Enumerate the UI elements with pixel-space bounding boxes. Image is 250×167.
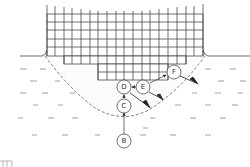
diagram-canvas: D E F C B xyxy=(0,0,250,167)
node-f-label: F xyxy=(172,68,176,76)
node-c: C xyxy=(117,99,131,113)
node-b: B xyxy=(117,134,131,148)
node-c-label: C xyxy=(122,102,127,110)
node-d-label: D xyxy=(121,83,126,91)
node-e-label: E xyxy=(141,83,145,91)
node-d: D xyxy=(117,80,131,94)
node-e: E xyxy=(136,80,150,94)
corner-mark xyxy=(0,161,12,167)
node-f: F xyxy=(167,65,181,79)
node-b-label: B xyxy=(122,137,127,145)
